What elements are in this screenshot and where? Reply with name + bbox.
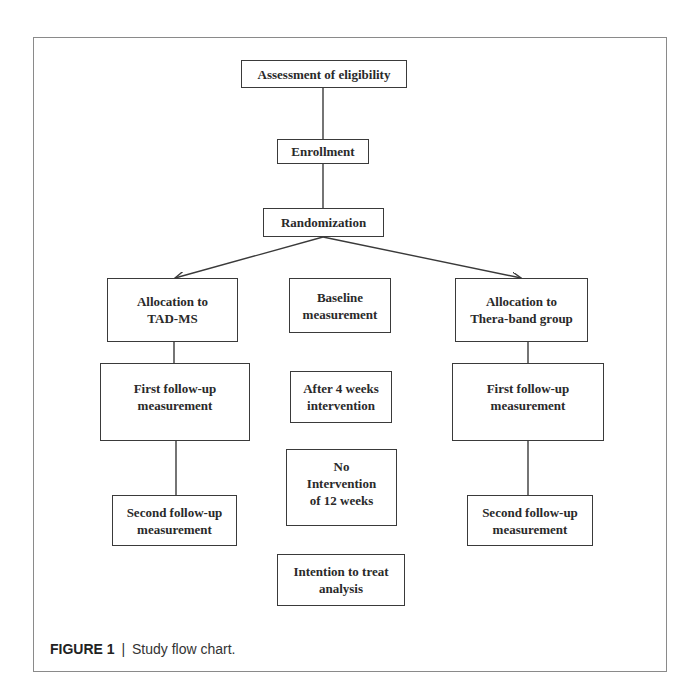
left-second-follow-up-label: Second follow-up measurement bbox=[127, 504, 223, 538]
arrow-to-tad-ms bbox=[175, 237, 323, 278]
right-second-follow-up-box: Second follow-up measurement bbox=[467, 495, 593, 546]
intention-to-treat-box: Intention to treat analysis bbox=[277, 554, 405, 606]
after-4-weeks-label: After 4 weeks intervention bbox=[303, 380, 379, 414]
allocation-tad-ms-label: Allocation to TAD-MS bbox=[137, 293, 208, 327]
intention-to-treat-label: Intention to treat analysis bbox=[293, 563, 388, 597]
right-second-follow-up-label: Second follow-up measurement bbox=[482, 504, 578, 538]
randomization-box: Randomization bbox=[263, 208, 384, 237]
allocation-tad-ms-box: Allocation to TAD-MS bbox=[107, 278, 238, 342]
figure-caption-separator: | bbox=[121, 641, 125, 657]
left-second-follow-up-box: Second follow-up measurement bbox=[112, 495, 237, 546]
allocation-thera-band-label: Allocation to Thera-band group bbox=[470, 293, 573, 327]
assessment-label: Assessment of eligibility bbox=[258, 66, 391, 83]
left-first-follow-up-label: First follow-up measurement bbox=[134, 380, 217, 414]
figure-caption-label: FIGURE 1 bbox=[50, 641, 115, 657]
figure-caption: FIGURE 1 | Study flow chart. bbox=[50, 641, 236, 657]
right-first-follow-up-box: First follow-up measurement bbox=[452, 363, 604, 441]
no-intervention-box: No Intervention of 12 weeks bbox=[286, 449, 397, 526]
allocation-thera-band-box: Allocation to Thera-band group bbox=[455, 278, 588, 342]
left-first-follow-up-box: First follow-up measurement bbox=[100, 363, 250, 441]
baseline-measurement-label: Baseline measurement bbox=[303, 289, 378, 323]
no-intervention-label: No Intervention of 12 weeks bbox=[307, 458, 376, 509]
enrollment-label: Enrollment bbox=[291, 143, 354, 160]
enrollment-box: Enrollment bbox=[277, 139, 369, 164]
assessment-of-eligibility-box: Assessment of eligibility bbox=[241, 60, 407, 88]
right-first-follow-up-label: First follow-up measurement bbox=[487, 380, 570, 414]
baseline-measurement-box: Baseline measurement bbox=[289, 278, 391, 333]
after-4-weeks-box: After 4 weeks intervention bbox=[290, 371, 392, 423]
arrow-to-thera-band bbox=[323, 237, 521, 278]
randomization-label: Randomization bbox=[281, 214, 366, 231]
figure-caption-text: Study flow chart. bbox=[132, 641, 236, 657]
